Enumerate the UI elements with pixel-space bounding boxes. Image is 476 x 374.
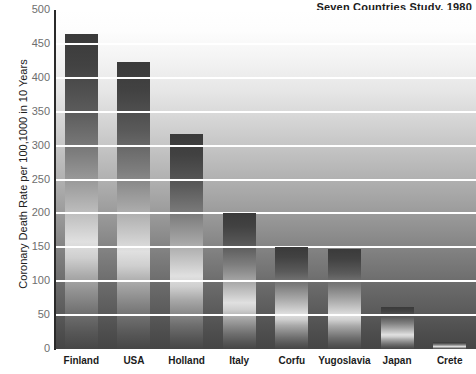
gridline-over-bar	[117, 111, 150, 113]
y-tick-label: 150	[4, 241, 50, 252]
y-tick-label: 450	[4, 38, 50, 49]
gridline-over-bar	[170, 246, 203, 248]
bar-finland[interactable]	[65, 34, 98, 349]
x-tick-label-crete: Crete	[400, 355, 476, 366]
gridline-over-bar	[170, 179, 203, 181]
gridline-over-bar	[65, 280, 98, 282]
bar-yugoslavia[interactable]	[328, 249, 361, 349]
gridline-over-bar	[65, 314, 98, 316]
gridline-over-bar	[223, 314, 256, 316]
gridline-over-bar	[65, 212, 98, 214]
gridline-over-bar	[65, 179, 98, 181]
y-tick-label: 400	[4, 72, 50, 83]
bar-usa[interactable]	[117, 62, 150, 349]
y-tick-label: 250	[4, 174, 50, 185]
y-tick-label: 0	[4, 343, 50, 354]
gridline-over-bar	[117, 179, 150, 181]
gridline-over-bar	[65, 145, 98, 147]
gridline-over-bar	[117, 145, 150, 147]
gridline-over-bar	[117, 212, 150, 214]
gridline-over-bar	[65, 111, 98, 113]
bar-corfu[interactable]	[275, 247, 308, 349]
gridline-over-bar	[117, 246, 150, 248]
gridline-over-bar	[65, 43, 98, 45]
gridline-over-bar	[170, 280, 203, 282]
plot-area	[55, 10, 476, 349]
gridline-over-bar	[65, 77, 98, 79]
gridline-over-bar	[170, 314, 203, 316]
gridline-over-bar	[328, 280, 361, 282]
gridline-over-bar	[223, 280, 256, 282]
bar-crete[interactable]	[433, 342, 466, 349]
gridline-over-bar	[170, 212, 203, 214]
gridline-over-bar	[170, 145, 203, 147]
y-axis-spine	[54, 10, 56, 350]
y-axis-tick-labels: 050100150200250300350400450500	[0, 0, 50, 374]
gridline-over-bar	[65, 246, 98, 248]
gridline	[55, 43, 476, 45]
gridline-over-bar	[117, 280, 150, 282]
gridline-over-bar	[328, 314, 361, 316]
gridline-over-bar	[117, 77, 150, 79]
gridline-over-bar	[381, 314, 414, 316]
gridline-over-bar	[223, 246, 256, 248]
y-tick-label: 350	[4, 106, 50, 117]
gridline-over-bar	[275, 280, 308, 282]
gridline-over-bar	[275, 314, 308, 316]
bar-holland[interactable]	[170, 134, 203, 349]
y-tick-label: 50	[4, 309, 50, 320]
chart-figure: Seven Countries Study, 1980 Coronary Dea…	[0, 0, 476, 374]
y-tick-label: 300	[4, 140, 50, 151]
y-tick-label: 100	[4, 275, 50, 286]
y-tick-label: 500	[4, 4, 50, 15]
y-tick-label: 200	[4, 207, 50, 218]
gridline-over-bar	[117, 314, 150, 316]
